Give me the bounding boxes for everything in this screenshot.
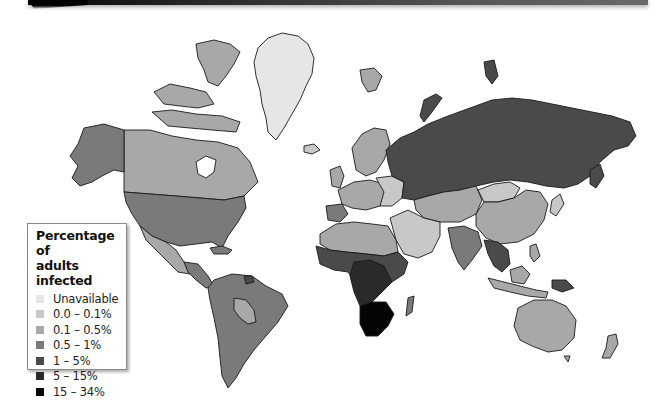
region-canada-islands xyxy=(154,84,214,108)
region-novaya-zemlya xyxy=(420,94,442,122)
legend-item-0.5-1: 0.5 – 1% xyxy=(36,338,126,354)
region-india xyxy=(448,226,482,270)
legend-swatch xyxy=(36,295,44,303)
region-southern-africa xyxy=(360,302,394,336)
legend-swatch xyxy=(36,341,44,349)
legend: Percentage of adults infected Unavailabl… xyxy=(27,223,127,370)
region-svalbard xyxy=(360,68,382,92)
region-south-america xyxy=(208,274,288,388)
legend-item-unavailable: Unavailable xyxy=(36,291,126,307)
region-japan xyxy=(550,194,564,216)
region-tasmania xyxy=(564,356,570,362)
region-usa xyxy=(124,192,246,248)
region-severnaya-zemlya xyxy=(484,60,498,84)
legend-swatch xyxy=(36,372,44,380)
region-australia xyxy=(514,300,576,352)
region-southeast-asia xyxy=(484,240,510,272)
region-caribbean xyxy=(210,246,232,254)
region-canada-arctic xyxy=(196,40,240,86)
legend-label: 0.5 – 1% xyxy=(53,338,101,352)
legend-item-1-5: 1 – 5% xyxy=(36,353,126,369)
legend-title-line1: Percentage of xyxy=(36,228,126,258)
region-philippines xyxy=(530,244,540,262)
legend-swatch xyxy=(36,310,44,318)
legend-item-15-34: 15 – 34% xyxy=(36,384,126,400)
legend-swatch xyxy=(36,388,44,396)
region-canada-islands-2 xyxy=(152,110,240,132)
legend-item-0.1-0.5: 0.1 – 0.5% xyxy=(36,322,126,338)
region-alaska xyxy=(70,124,124,186)
region-borneo xyxy=(510,266,530,284)
legend-swatch xyxy=(36,357,44,365)
region-iberia xyxy=(326,204,348,222)
legend-title: Percentage of adults infected xyxy=(36,228,126,288)
legend-label: 0.1 – 0.5% xyxy=(53,323,112,337)
region-new-zealand xyxy=(602,334,618,358)
region-scandinavia xyxy=(352,128,390,176)
legend-label: 0.0 – 0.1% xyxy=(53,307,112,321)
region-madagascar xyxy=(406,296,414,316)
region-central-america xyxy=(184,262,214,288)
region-png xyxy=(552,280,574,292)
legend-title-line2: adults infected xyxy=(36,258,126,288)
legend-swatch xyxy=(36,326,44,334)
region-canada xyxy=(124,130,258,200)
legend-label: 1 – 5% xyxy=(53,354,90,368)
legend-item-0-0.1: 0.0 – 0.1% xyxy=(36,307,126,323)
region-guyanas xyxy=(244,276,254,284)
region-iceland xyxy=(304,144,320,154)
legend-item-5-15: 5 – 15% xyxy=(36,369,126,385)
legend-label: Unavailable xyxy=(53,292,118,306)
legend-label: 15 – 34% xyxy=(53,385,105,399)
legend-label: 5 – 15% xyxy=(53,369,98,383)
region-greenland xyxy=(254,33,314,140)
region-uk xyxy=(330,166,344,188)
